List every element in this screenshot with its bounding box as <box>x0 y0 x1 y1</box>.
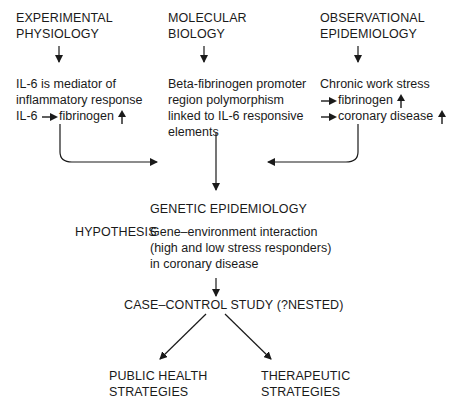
heading-observational-epidemiology: OBSERVATIONAL EPIDEMIOLOGY <box>320 10 425 42</box>
finding-observational: Chronic work stress fibrinogen coronary … <box>320 76 447 124</box>
curved-arrow-left-branch <box>60 124 157 162</box>
arrow-up-icon <box>396 94 406 108</box>
effect-coronary-disease: coronary disease <box>320 108 447 124</box>
hypothesis-text: Gene–environment interaction (high and l… <box>150 224 331 272</box>
genetic-epidemiology-title: GENETIC EPIDEMIOLOGY <box>150 201 307 217</box>
arrow-diagonal-right-icon <box>225 314 271 359</box>
arrow-diagonal-left-icon <box>160 314 206 359</box>
outcome-public-health: PUBLIC HEALTH STRATEGIES <box>109 368 207 400</box>
outcome-therapeutic: THERAPEUTIC STRATEGIES <box>261 368 350 400</box>
arrow-right-icon <box>320 112 338 122</box>
relation-il6-fibrinogen: IL-6 fibrinogen <box>16 108 142 124</box>
arrow-up-icon <box>117 110 127 124</box>
heading-experimental-physiology: EXPERIMENTAL PHYSIOLOGY <box>16 10 113 42</box>
arrow-right-icon <box>320 96 338 106</box>
effect-fibrinogen: fibrinogen <box>320 92 447 108</box>
finding-molecular: Beta-fibrinogen promoter region polymorp… <box>168 76 306 140</box>
arrow-up-icon <box>437 110 447 124</box>
case-control-study: CASE–CONTROL STUDY (?NESTED) <box>124 297 344 313</box>
heading-molecular-biology: MOLECULAR BIOLOGY <box>168 10 247 42</box>
hypothesis-label: HYPOTHESIS <box>75 224 157 240</box>
finding-experimental: IL-6 is mediator of inflammatory respons… <box>16 76 142 124</box>
arrow-right-icon <box>41 112 59 122</box>
